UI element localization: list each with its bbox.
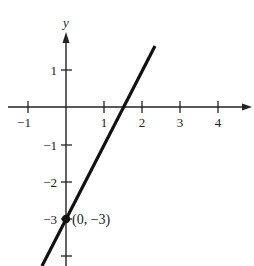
- x-tick-label: 4: [215, 115, 222, 130]
- x-tick-label: 2: [139, 115, 146, 130]
- y-axis-label: y: [61, 15, 69, 30]
- point-annotation: (0, −3): [72, 212, 111, 228]
- y-axis: y 1 −1 −2 −3: [43, 15, 72, 266]
- line-graph: −1 1 2 3 4 y 1 −1 −2 −3 (0, −3): [0, 0, 254, 266]
- y-tick-label: −1: [43, 138, 57, 153]
- x-tick-label: −1: [17, 115, 31, 130]
- x-axis: −1 1 2 3 4: [8, 101, 252, 130]
- y-tick-label: −3: [43, 212, 57, 227]
- x-tick-label: 3: [177, 115, 184, 130]
- intercept-point-marker: [62, 215, 70, 223]
- y-tick-label: 1: [51, 63, 58, 78]
- x-tick-label: 1: [101, 115, 108, 130]
- y-tick-label: −2: [43, 175, 57, 190]
- y-axis-arrow-icon: [63, 32, 70, 43]
- x-axis-arrow-icon: [242, 104, 252, 111]
- series-line: [42, 46, 155, 266]
